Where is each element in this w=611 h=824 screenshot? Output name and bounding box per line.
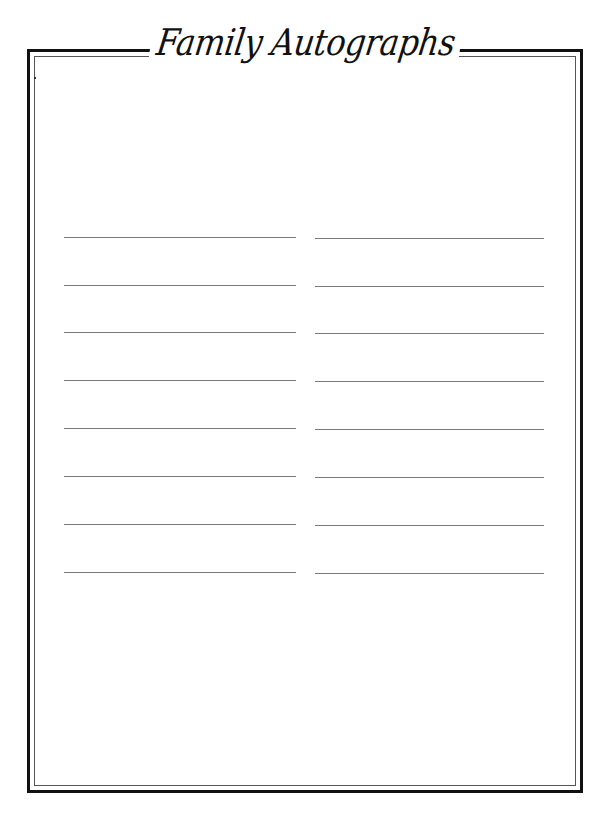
signature-line <box>64 237 296 238</box>
signature-line <box>315 238 544 239</box>
signature-line <box>315 573 544 574</box>
signature-line <box>315 429 544 430</box>
signature-line <box>64 428 296 429</box>
signature-line <box>64 332 296 333</box>
signature-line <box>64 380 296 381</box>
signature-line <box>315 477 544 478</box>
signature-line <box>64 524 296 525</box>
inner-border <box>34 56 576 786</box>
signature-line <box>64 476 296 477</box>
stray-mark <box>34 77 36 79</box>
signature-line <box>315 381 544 382</box>
signature-line <box>64 285 296 286</box>
signature-line <box>64 572 296 573</box>
signature-line <box>315 333 544 334</box>
signature-line <box>315 286 544 287</box>
signature-line <box>315 525 544 526</box>
